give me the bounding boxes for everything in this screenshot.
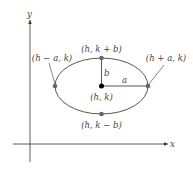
semi-major-label: a [122, 75, 127, 85]
left-point-label: (h − a, k) [32, 53, 72, 63]
center-point [99, 84, 104, 89]
ellipse-diagram: y x b a (h, k + b) (h, k) (h, k − b) (h … [0, 0, 193, 170]
left-leader-line [49, 63, 55, 84]
vertex-left-point [53, 84, 58, 89]
right-leader-line [149, 65, 164, 84]
vertex-right-point [146, 84, 151, 89]
vertex-top-point [99, 56, 104, 61]
vertex-bottom-point [99, 112, 104, 117]
x-axis-label: x [170, 139, 175, 149]
right-point-label: (h + a, k) [146, 53, 186, 63]
bottom-point-label: (h, k − b) [81, 120, 122, 130]
y-axis-label: y [26, 9, 32, 19]
semi-minor-label: b [104, 68, 109, 78]
center-point-label: (h, k) [90, 92, 113, 102]
top-point-label: (h, k + b) [81, 44, 122, 54]
